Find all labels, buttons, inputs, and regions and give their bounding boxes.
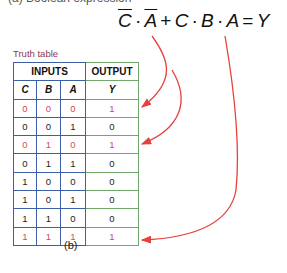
arrow-term1-row000 [142, 36, 167, 107]
arrow-term1-row010 [142, 70, 181, 144]
mapping-arrows [0, 0, 287, 273]
part-b-caption: (b) [64, 239, 77, 251]
arrow-term2-row111 [142, 36, 238, 240]
